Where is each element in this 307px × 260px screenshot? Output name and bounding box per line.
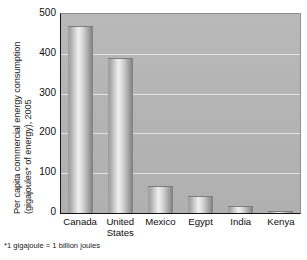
x-tick-label: Canada bbox=[60, 216, 100, 238]
y-tick-label: 500 bbox=[39, 8, 56, 18]
y-tick-label: 0 bbox=[50, 207, 56, 217]
y-tick-label: 400 bbox=[39, 48, 56, 58]
bar-canada[interactable] bbox=[68, 26, 93, 213]
bar-slot bbox=[260, 14, 300, 213]
bar-india[interactable] bbox=[228, 206, 253, 213]
bar-mexico[interactable] bbox=[148, 186, 173, 213]
bar-slot bbox=[61, 14, 101, 213]
chart-footnote: *1 gigajoule = 1 billion joules bbox=[4, 241, 100, 250]
y-tick-label: 300 bbox=[39, 88, 56, 98]
bar-slot bbox=[101, 14, 141, 213]
bar-egypt[interactable] bbox=[188, 196, 213, 213]
plot-area bbox=[60, 13, 301, 214]
x-tick-label: Kenya bbox=[261, 216, 301, 238]
x-tick-label: Egypt bbox=[181, 216, 221, 238]
x-tick-label: Mexico bbox=[140, 216, 180, 238]
bar-slot bbox=[180, 14, 220, 213]
bar-series bbox=[61, 14, 300, 213]
bar-slot bbox=[141, 14, 181, 213]
bar-united-states[interactable] bbox=[108, 58, 133, 213]
y-axis-label: Per capita commercial energy consumption… bbox=[0, 6, 30, 214]
y-axis-tick-labels: 5004003002001000 bbox=[28, 0, 56, 260]
x-tick-label: United States bbox=[100, 216, 140, 238]
x-axis-category-labels: CanadaUnited StatesMexicoEgyptIndiaKenya bbox=[60, 216, 301, 238]
chart-figure: Per capita commercial energy consumption… bbox=[0, 0, 307, 260]
y-tick-label: 100 bbox=[39, 167, 56, 177]
y-axis-label-line-1: Per capita commercial energy consumption bbox=[12, 42, 22, 214]
y-tick-label: 200 bbox=[39, 127, 56, 137]
bar-slot bbox=[220, 14, 260, 213]
bar-kenya[interactable] bbox=[268, 211, 293, 213]
x-tick-label: India bbox=[221, 216, 261, 238]
